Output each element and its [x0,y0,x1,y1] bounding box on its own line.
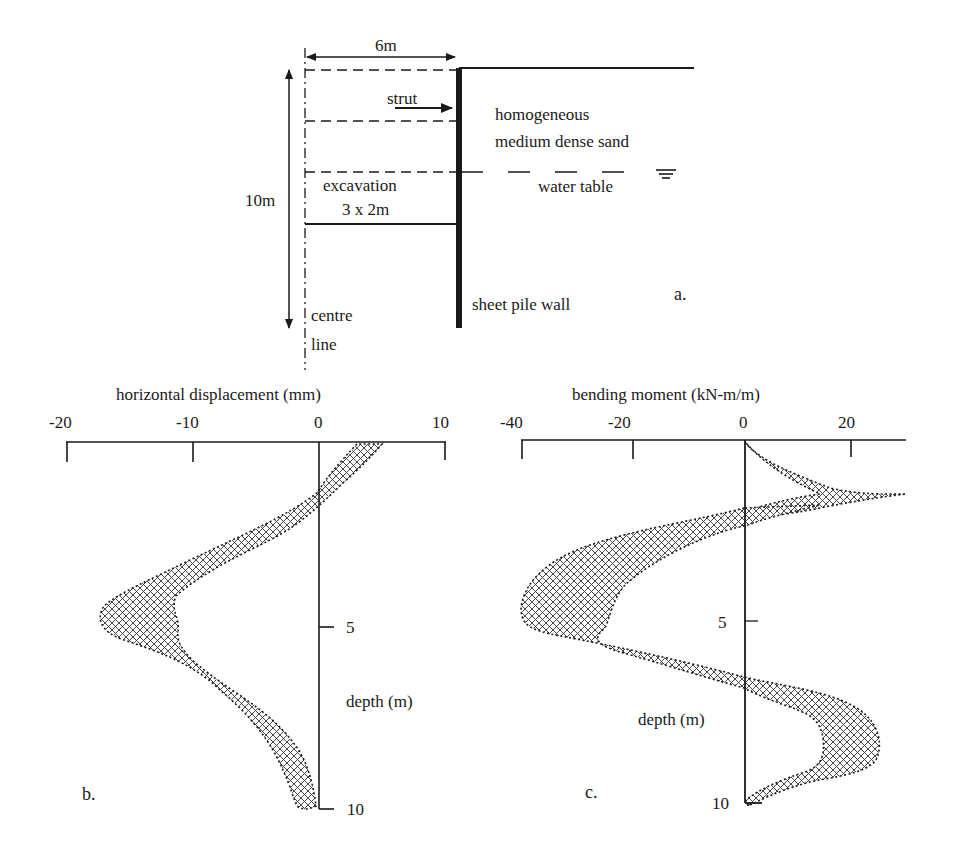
water-table-label: water table [538,177,613,196]
soil-label-line1: homogeneous [495,105,589,124]
displacement-chart: horizontal displacement (mm) -20 -10 0 1… [49,385,449,819]
chart-c-envelope [521,505,879,806]
chart-b-title: horizontal displacement (mm) [116,385,321,404]
chart-b-ytick: 10 [347,800,364,819]
figure-canvas: 6m 10m strut homogeneous medium dense sa… [0,0,953,861]
chart-c-envelope-top [744,442,906,515]
soil-label-line2: medium dense sand [495,132,630,151]
wall-label: sheet pile wall [472,295,570,314]
chart-c-xtick: -40 [500,413,523,432]
chart-c-ytick: 5 [718,613,727,632]
chart-b-envelope [100,444,382,809]
excavation-label-line2: 3 x 2m [342,200,389,219]
depth-label: 10m [245,191,275,210]
chart-c-xtick: 20 [838,413,855,432]
panel-label-a: a. [674,284,687,304]
chart-b-ylabel: depth (m) [346,692,413,711]
excavation-schematic: 6m 10m strut homogeneous medium dense sa… [245,36,694,370]
panel-label-c: c. [585,782,598,802]
width-label: 6m [375,36,397,55]
chart-b-xtick: 0 [314,413,323,432]
panel-label-b: b. [82,784,96,804]
strut-label: strut [387,89,418,108]
sheet-pile-wall [456,68,462,328]
chart-b-ytick: 5 [346,618,355,637]
chart-b-xtick: -10 [176,413,199,432]
bending-moment-chart: bending moment (kN-m/m) -40 -20 0 20 5 1… [500,385,906,813]
chart-c-ylabel: depth (m) [638,710,705,729]
centre-label-line1: centre [311,306,353,325]
chart-c-title: bending moment (kN-m/m) [572,385,760,404]
chart-c-xtick: -20 [608,413,631,432]
water-table-icon [656,170,676,178]
centre-label-line2: line [311,335,337,354]
excavation-label-line1: excavation [323,176,397,195]
chart-c-ytick: 10 [712,794,729,813]
chart-b-xtick: 10 [432,413,449,432]
chart-b-xtick: -20 [49,413,72,432]
chart-c-xtick: 0 [739,413,748,432]
